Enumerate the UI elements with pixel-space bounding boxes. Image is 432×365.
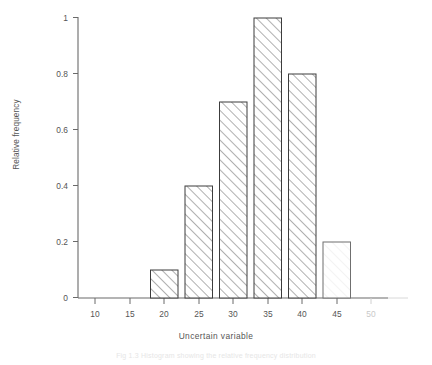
x-tick-label: 15 [125, 309, 135, 319]
x-tick-label: 20 [159, 309, 169, 319]
y-tick-label: 0.4 [56, 181, 68, 191]
x-tick-label: 30 [228, 309, 238, 319]
y-tick-label: 0.2 [56, 237, 68, 247]
x-tick-label: 10 [90, 309, 100, 319]
x-tick-label: 45 [332, 309, 342, 319]
bars-group [151, 18, 351, 298]
bar-45[interactable] [323, 242, 351, 298]
y-tick-labels: 1 0.8 0.6 0.4 0.2 0 [56, 13, 68, 303]
y-tick-label: 1 [63, 13, 68, 23]
bar-20[interactable] [151, 270, 179, 298]
x-tick-label: 35 [263, 309, 273, 319]
x-tick-label: 25 [194, 309, 204, 319]
y-tick-label: 0.6 [56, 125, 68, 135]
x-tick-labels: 10 15 20 25 30 35 40 45 50 [90, 309, 376, 319]
bar-30[interactable] [220, 102, 248, 298]
bar-40[interactable] [289, 74, 317, 298]
x-tick-label: 40 [297, 309, 307, 319]
figure-caption: Fig 1.3 Histogram showing the relative f… [0, 352, 432, 359]
figure-container: 1 0.8 0.6 0.4 0.2 0 10 15 20 25 30 35 [0, 0, 432, 365]
y-tick-label: 0 [63, 293, 68, 303]
bar-25[interactable] [185, 186, 213, 298]
bar-35[interactable] [254, 18, 282, 298]
x-tick-label: 50 [366, 309, 376, 319]
histogram-plot: 1 0.8 0.6 0.4 0.2 0 10 15 20 25 30 35 [0, 0, 432, 365]
y-axis-label: Relative frequency [12, 75, 21, 195]
x-tick-marks [95, 298, 371, 304]
y-tick-label: 0.8 [56, 69, 68, 79]
x-axis-label: Uncertain variable [0, 331, 432, 341]
y-tick-marks [73, 18, 78, 298]
